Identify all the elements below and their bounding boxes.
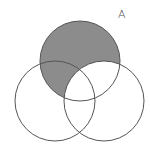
venn-diagram: A xyxy=(0,0,150,161)
shaded-region xyxy=(0,0,150,161)
diagram-label: A xyxy=(118,8,126,21)
